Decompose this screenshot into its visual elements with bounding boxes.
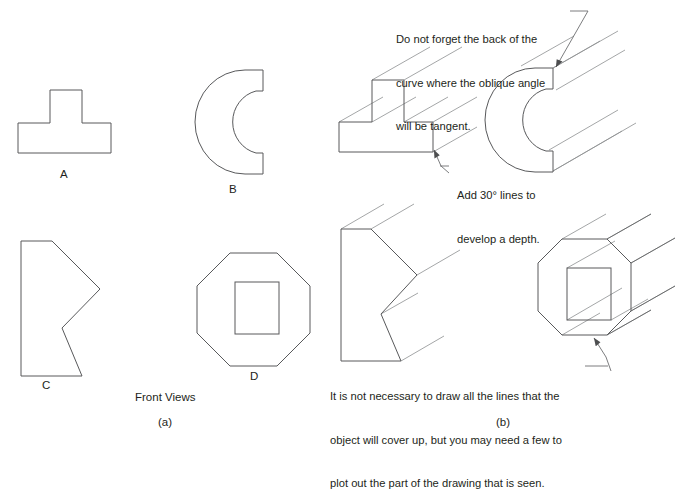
shape-c-chevron-front-view (21, 241, 100, 376)
annotation-hidden-lines: It is not necessary to draw all the line… (330, 360, 562, 493)
annotation-add-30-lines: Add 30° lines to develop a depth. (457, 159, 540, 261)
panel-label-b: (b) (496, 416, 510, 428)
shape-label-b: B (229, 183, 237, 195)
panel-label-a: (a) (158, 416, 172, 428)
front-views-caption: Front Views (135, 391, 196, 403)
square-hole-d-oblique (567, 268, 611, 320)
leader-back-of-curve (556, 11, 588, 67)
shape-d-octagon-front-view (197, 253, 310, 366)
annotation-back-of-curve-line-3: will be tangent. (396, 119, 545, 134)
annotation-add-30-lines-line-2: develop a depth. (457, 232, 540, 247)
annotation-hidden-lines-line-3: plot out the part of the drawing that is… (330, 476, 562, 491)
annotation-hidden-lines-line-2: object will cover up, but you may need a… (330, 433, 562, 448)
shape-label-d: D (250, 370, 258, 382)
leader-add-30-lines (434, 150, 449, 173)
square-hole-d (235, 282, 279, 334)
shape-label-c: C (42, 379, 50, 391)
oblique-c-chevron (341, 204, 460, 361)
oblique-d-octagon (538, 214, 675, 335)
shape-label-a: A (60, 168, 68, 180)
projection-lines-c (341, 204, 460, 361)
annotation-back-of-curve-line-2: curve where the oblique angle (396, 76, 545, 91)
annotation-back-of-curve: Do not forget the back of the curve wher… (396, 3, 545, 148)
annotation-hidden-lines-line-1: It is not necessary to draw all the line… (330, 389, 562, 404)
shape-a-tee-front-view (18, 90, 111, 153)
annotation-back-of-curve-line-1: Do not forget the back of the (396, 32, 545, 47)
annotation-add-30-lines-line-1: Add 30° lines to (457, 188, 540, 203)
shape-b-crescent-front-view (195, 70, 263, 174)
